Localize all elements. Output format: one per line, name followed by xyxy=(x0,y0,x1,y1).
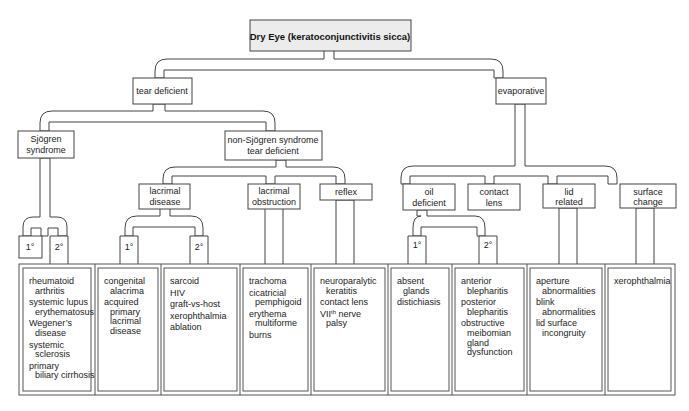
label-contact-lens-line2: lens xyxy=(486,198,503,208)
list-item-text: disease xyxy=(110,326,141,336)
list-item-text: lid surface xyxy=(536,318,577,328)
list-item-text: blink xyxy=(536,297,555,307)
list-item-text: blepharitis xyxy=(467,286,509,296)
list-item-text: neuroparalytic xyxy=(320,276,377,286)
label-lacrimal-obstruction-line1: lacrimal xyxy=(258,186,289,196)
label-lid-related-line1: lid xyxy=(564,187,573,197)
disease-list-panel: rheumatoidarthritissystemic lupuserythem… xyxy=(19,264,675,395)
label-lacrimal-primary: 1° xyxy=(125,242,134,252)
list-item-text: Wegener’s xyxy=(29,318,73,328)
label-lacrimal-disease-line2: disease xyxy=(149,197,180,207)
list-item-text: glands xyxy=(403,286,430,296)
label-surface-change-line1: surface xyxy=(633,187,663,197)
label-non-sjogren-line2: tear deficient xyxy=(247,146,299,156)
label-sjogren-line1: Sjögren xyxy=(30,134,61,144)
list-item-text: burns xyxy=(249,330,272,340)
pipe-root-split xyxy=(155,50,503,78)
label-oil-deficient-line1: oil xyxy=(424,187,433,197)
list-item-text: HIV xyxy=(170,288,185,298)
label-surface-change-line2: change xyxy=(633,197,663,207)
list-item-text: alacrima xyxy=(110,286,144,296)
label-sjogren-primary: 1° xyxy=(26,242,35,252)
label-evaporative: evaporative xyxy=(498,86,545,96)
list-item-text: biliary cirrhosis xyxy=(35,370,95,380)
list-item-text: rheumatoid xyxy=(29,276,74,286)
list-item-text: aperture xyxy=(536,276,570,286)
pipe-tear-split xyxy=(40,104,275,131)
label-sjogren-secondary: 2° xyxy=(55,242,64,252)
list-item-text: xerophthalmia xyxy=(614,276,671,286)
dry-eye-classification-diagram: Dry Eye (keratoconjunctivitis sicca) tea… xyxy=(0,0,689,411)
list-item-text: keratitis xyxy=(326,286,358,296)
list-item-text: xerophthalmia xyxy=(170,311,227,321)
label-oil-deficient-line2: deficient xyxy=(412,198,446,208)
list-item-text: dysfunction xyxy=(467,347,513,357)
label-oil-primary: 1° xyxy=(413,240,422,250)
connector-pipes xyxy=(23,50,659,278)
list-item-text: gland xyxy=(467,338,489,348)
label-reflex: reflex xyxy=(335,187,358,197)
list-item-text: posterior xyxy=(461,297,496,307)
list-item-text: congenital xyxy=(104,276,145,286)
pipe-nonsjogren-split xyxy=(163,160,345,184)
list-item-text: primary xyxy=(29,361,60,371)
list-item-text: sarcoid xyxy=(170,276,199,286)
label-contact-lens-line1: contact xyxy=(479,187,509,197)
list-item-text: palsy xyxy=(326,318,348,328)
pipe-lacrimal-disease-split xyxy=(125,208,203,236)
pipe-evap-split xyxy=(401,104,617,184)
pipe-oil-split xyxy=(413,210,485,236)
list-item-text: distichiasis xyxy=(397,297,441,307)
root-node-label: Dry Eye (keratoconjunctivitis sicca) xyxy=(250,31,411,42)
list-item-text: absent xyxy=(397,276,425,286)
list-item-text: trachoma xyxy=(249,276,287,286)
list-item-text: sclerosis xyxy=(35,349,71,359)
list-item-text: graft-vs-host xyxy=(170,299,221,309)
label-tear-deficient: tear deficient xyxy=(136,86,188,96)
list-item-text: acquired xyxy=(104,297,139,307)
list-item-text: ablation xyxy=(170,322,202,332)
label-lid-related-line2: related xyxy=(555,197,583,207)
list-item-text: obstructive xyxy=(461,318,505,328)
list-item-text: primary xyxy=(110,307,141,317)
list-item-text: abnormalities xyxy=(542,286,596,296)
label-lacrimal-secondary: 2° xyxy=(195,242,204,252)
pipe-sjogren-stem xyxy=(23,158,67,236)
label-lacrimal-obstruction-line2: obstruction xyxy=(252,197,296,207)
label-lacrimal-disease-line1: lacrimal xyxy=(149,186,180,196)
list-item-text: lacrimal xyxy=(110,316,141,326)
list-item-text: VIIth nerve xyxy=(320,309,361,319)
list-item-text: erythematosus xyxy=(35,307,95,317)
list-item-text: disease xyxy=(35,328,66,338)
label-sjogren-line2: syndrome xyxy=(26,145,66,155)
list-item-text: pemphigoid xyxy=(255,297,302,307)
list-item-text: incongruity xyxy=(542,328,586,338)
list-item-text: abnormalities xyxy=(542,307,596,317)
list-item-text: arthritis xyxy=(35,286,65,296)
list-item-text: cicatricial xyxy=(249,288,286,298)
list-cell xyxy=(608,268,671,391)
list-item-text: multiforme xyxy=(255,318,297,328)
label-non-sjogren-line1: non-Sjögren syndrome xyxy=(227,135,318,145)
list-item-text: blepharitis xyxy=(467,307,509,317)
list-item-text: systemic xyxy=(29,340,65,350)
label-oil-secondary: 2° xyxy=(484,240,493,250)
list-item-text: systemic lupus xyxy=(29,297,89,307)
list-item-text: contact lens xyxy=(320,297,369,307)
list-item-text: erythema xyxy=(249,309,287,319)
list-item-text: meibomian xyxy=(467,328,511,338)
list-item-text: anterior xyxy=(461,276,492,286)
